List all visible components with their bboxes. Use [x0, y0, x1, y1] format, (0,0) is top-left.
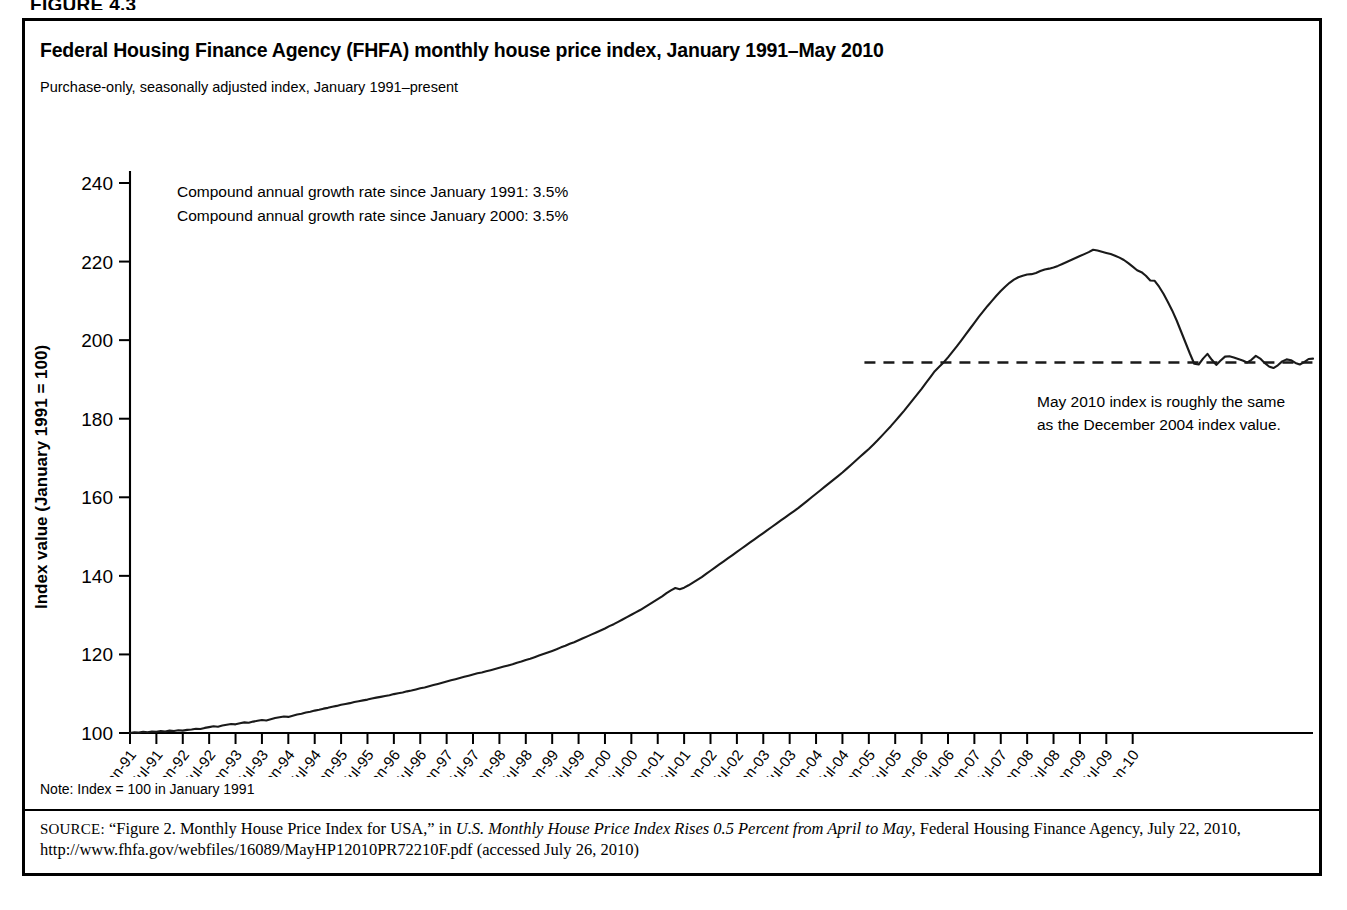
- figure-frame: Federal Housing Finance Agency (FHFA) mo…: [22, 18, 1322, 876]
- page-title: Federal Housing Finance Agency (FHFA) mo…: [40, 39, 884, 62]
- figure-note: Note: Index = 100 in January 1991: [40, 781, 254, 797]
- y-tick-label: 240: [81, 173, 113, 194]
- x-axis: Jan-91Jul-91Jan-92Jul-92Jan-93Jul-93Jan-…: [98, 733, 1313, 777]
- y-tick-label: 160: [81, 487, 113, 508]
- source-citation: SOURCE: “Figure 2. Monthly House Price I…: [40, 818, 1308, 860]
- annotation-cagr-1991: Compound annual growth rate since Januar…: [177, 183, 568, 200]
- source-prefix: SOURCE:: [40, 821, 105, 837]
- y-axis-title: Index value (January 1991 = 100): [32, 345, 51, 609]
- chart-plot-area: 100120140160180200220240 Jan-91Jul-91Jan…: [25, 117, 1319, 777]
- y-tick-label: 120: [81, 644, 113, 665]
- y-tick-label: 220: [81, 252, 113, 273]
- figure-subtitle: Purchase-only, seasonally adjusted index…: [40, 79, 458, 95]
- y-tick-label: 200: [81, 330, 113, 351]
- line-chart: 100120140160180200220240 Jan-91Jul-91Jan…: [25, 117, 1319, 777]
- annotation-dashed-line-1: May 2010 index is roughly the same: [1037, 393, 1285, 410]
- y-tick-label: 140: [81, 566, 113, 587]
- annotation-dashed-line-2: as the December 2004 index value.: [1037, 416, 1281, 433]
- y-tick-label: 100: [81, 723, 113, 744]
- source-italic-title: U.S. Monthly House Price Index Rises 0.5…: [456, 819, 912, 838]
- figure-label: FIGURE 4.3: [30, 0, 136, 10]
- source-quoted-title: “Figure 2. Monthly House Price Index for…: [109, 819, 456, 838]
- y-tick-label: 180: [81, 409, 113, 430]
- annotation-cagr-2000: Compound annual growth rate since Januar…: [177, 207, 568, 224]
- series-line-fhfa-hpi: [130, 250, 1313, 733]
- divider: [25, 809, 1319, 811]
- y-axis: 100120140160180200220240: [81, 171, 130, 744]
